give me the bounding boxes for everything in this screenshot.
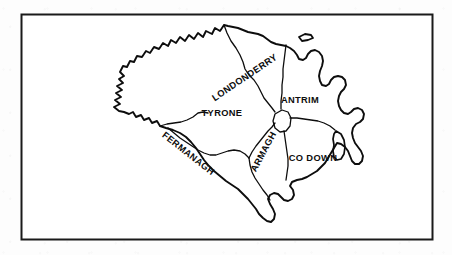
map-frame (22, 15, 433, 240)
map-page: LONDONDERRY ANTRIM TYRONE FERMANAGH ARMA… (0, 0, 452, 255)
county-label-antrim: ANTRIM (281, 95, 319, 105)
northern-ireland-county-map: LONDONDERRY ANTRIM TYRONE FERMANAGH ARMA… (0, 0, 452, 255)
county-label-tyrone: TYRONE (202, 108, 243, 118)
county-label-co-down: CO DOWN (289, 153, 337, 163)
